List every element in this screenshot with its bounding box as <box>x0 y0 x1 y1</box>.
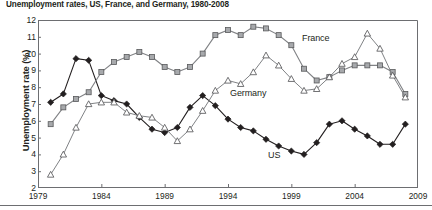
marker-us <box>390 141 396 147</box>
footer-divider <box>0 205 432 206</box>
x-tick-2009: 2009 <box>395 191 432 201</box>
marker-germany <box>351 54 357 60</box>
marker-france <box>238 33 243 38</box>
marker-france <box>264 26 269 31</box>
marker-us <box>339 118 345 124</box>
marker-france <box>137 49 142 54</box>
x-tick-1999: 1999 <box>268 191 314 201</box>
x-tick-1989: 1989 <box>142 191 188 201</box>
marker-germany <box>187 126 193 132</box>
marker-france <box>378 63 383 68</box>
y-tick-8: 8 <box>14 83 36 91</box>
marker-germany <box>364 30 370 36</box>
marker-germany <box>73 124 79 130</box>
marker-germany <box>60 151 66 157</box>
marker-us <box>250 128 256 134</box>
x-tick-1994: 1994 <box>205 191 251 201</box>
chart-figure: Unemployment rates, US, France, and Germ… <box>0 0 432 210</box>
marker-us <box>263 136 269 142</box>
marker-france <box>276 33 281 38</box>
marker-france <box>175 70 180 75</box>
series-label-france: France <box>302 33 329 43</box>
marker-france <box>48 122 53 127</box>
marker-france <box>74 96 79 101</box>
marker-germany <box>339 60 345 66</box>
marker-france <box>124 54 129 59</box>
marker-france <box>162 65 167 70</box>
x-tick-2004: 2004 <box>332 191 378 201</box>
y-axis-tick-labels: 12111098765432 <box>10 20 36 188</box>
series-france-line <box>51 27 406 124</box>
marker-france <box>289 43 294 48</box>
marker-us <box>86 57 92 63</box>
marker-france <box>314 78 319 83</box>
marker-france <box>150 54 155 59</box>
y-tick-5: 5 <box>14 134 36 142</box>
chart-canvas <box>38 20 418 188</box>
plot-area <box>38 20 418 188</box>
marker-us <box>238 124 244 130</box>
marker-france <box>226 28 231 33</box>
marker-france <box>86 90 91 95</box>
marker-us <box>174 124 180 130</box>
marker-france <box>213 33 218 38</box>
marker-france <box>352 63 357 68</box>
marker-france <box>99 70 104 75</box>
marker-us <box>98 93 104 99</box>
x-tick-1979: 1979 <box>15 191 61 201</box>
marker-us <box>377 141 383 147</box>
marker-us <box>364 133 370 139</box>
marker-us <box>352 126 358 132</box>
x-tick-1984: 1984 <box>78 191 124 201</box>
marker-france <box>112 60 117 65</box>
marker-france <box>340 68 345 73</box>
y-tick-12: 12 <box>14 16 36 24</box>
marker-us <box>402 121 408 127</box>
y-tick-9: 9 <box>14 66 36 74</box>
marker-us <box>288 148 294 154</box>
marker-us <box>326 121 332 127</box>
marker-france <box>200 51 205 56</box>
marker-us <box>60 91 66 97</box>
marker-germany <box>47 171 53 177</box>
y-tick-7: 7 <box>14 100 36 108</box>
y-tick-3: 3 <box>14 167 36 175</box>
marker-france <box>188 65 193 70</box>
series-germany <box>47 30 408 177</box>
y-tick-6: 6 <box>14 117 36 125</box>
marker-us <box>276 143 282 149</box>
x-axis-tick-labels: 1979198419891994199920042009 <box>38 191 430 203</box>
marker-germany <box>225 77 231 83</box>
marker-france <box>302 66 307 71</box>
marker-germany <box>199 108 205 114</box>
marker-france <box>365 63 370 68</box>
y-tick-10: 10 <box>14 50 36 58</box>
marker-france <box>61 105 66 110</box>
marker-france <box>251 24 256 29</box>
series-label-us: US <box>268 150 280 160</box>
series-france <box>48 24 408 126</box>
y-tick-4: 4 <box>14 150 36 158</box>
marker-us <box>48 99 54 105</box>
marker-germany <box>263 52 269 58</box>
chart-title: Unemployment rates, US, France, and Germ… <box>6 0 426 10</box>
series-label-germany: Germany <box>230 88 266 98</box>
y-tick-11: 11 <box>14 33 36 41</box>
marker-us <box>73 56 79 62</box>
